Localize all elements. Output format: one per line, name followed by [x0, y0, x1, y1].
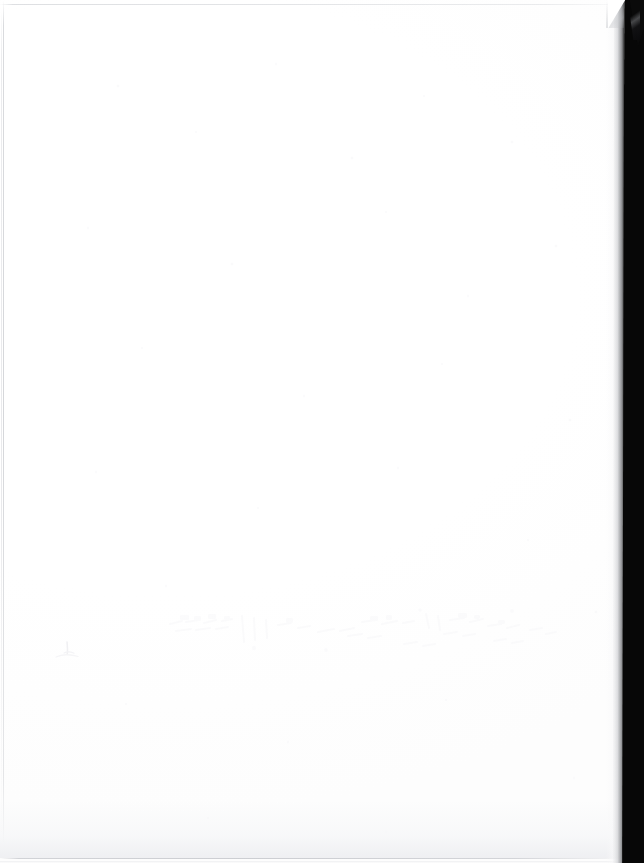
- torn-corner-notch: [610, 0, 644, 46]
- paper-edge-line-left-secondary: [1, 8, 2, 838]
- bottom-edge-shading: [0, 800, 626, 858]
- paper-sheet: [0, 0, 644, 863]
- paper-edge-line-top: [0, 4, 640, 5]
- torn-corner-paper: [608, 0, 628, 30]
- paper-edge-line-bottom: [0, 858, 626, 859]
- paper-edge-line-left: [3, 0, 4, 845]
- scanner-bed-soft-edge: [612, 0, 624, 863]
- scanned-page-canvas: [0, 0, 644, 863]
